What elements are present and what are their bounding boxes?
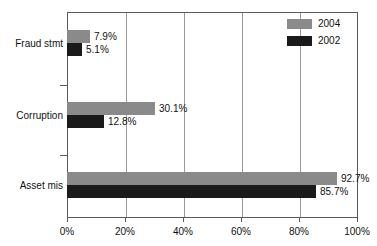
bar-asset-mis-2002[interactable] [67,185,316,198]
legend-label-2004: 2004 [318,18,340,30]
x-axis-tick-0 [67,218,68,222]
bar-value-corruption-2002: 12.8% [104,115,136,128]
x-axis-tick-60 [241,218,242,222]
bar-fraud-stmt-2004[interactable] [67,30,90,43]
x-axis-tick-100 [357,218,358,222]
x-axis-label-60: 60% [231,226,251,238]
category-label-corruption: Corruption [0,110,63,121]
bar-value-fraud-stmt-2002: 5.1% [82,43,109,56]
bar-corruption-2002[interactable] [67,115,104,128]
bar-asset-mis-2004[interactable] [67,172,337,185]
x-axis-label-0: 0% [60,226,74,238]
y-axis-tick-2 [60,155,67,156]
x-axis-label-80: 80% [289,226,309,238]
legend-swatch-icon-2002 [287,36,312,46]
x-axis-label-100: 100% [344,226,370,238]
legend-label-2002: 2002 [318,35,340,47]
bar-value-corruption-2004: 30.1% [155,102,187,115]
y-axis-tick-1 [60,85,67,86]
x-axis-tick-80 [299,218,300,222]
x-axis-tick-20 [125,218,126,222]
bar-value-fraud-stmt-2004: 7.9% [90,30,117,43]
bar-chart: Fraud stmt 7.9% 5.1% Corruption 30.1% 12… [0,0,377,246]
x-axis-label-20: 20% [115,226,135,238]
x-axis-label-40: 40% [173,226,193,238]
category-label-fraud-stmt: Fraud stmt [0,38,63,49]
category-label-asset-mis: Asset mis [0,180,63,191]
legend-swatch-icon-2004 [287,19,312,29]
bar-value-asset-mis-2002: 85.7% [316,185,348,198]
bar-fraud-stmt-2002[interactable] [67,43,82,56]
bar-corruption-2004[interactable] [67,102,155,115]
bar-value-asset-mis-2004: 92.7% [337,172,369,185]
x-axis-tick-40 [183,218,184,222]
